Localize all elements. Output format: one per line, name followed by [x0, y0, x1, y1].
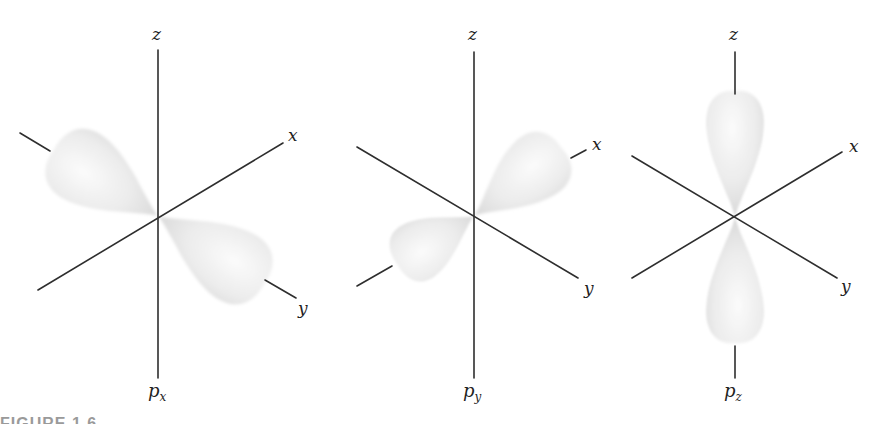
x-axis-label: x [849, 136, 859, 156]
orbital-letter: p [724, 380, 736, 401]
lobe-axis-stub-lower [357, 266, 392, 286]
py-lobe-upper [453, 121, 582, 242]
panel-pz: z x y pz [632, 24, 859, 404]
p-orbitals-figure: z x y px z x y py [0, 0, 877, 424]
y-axis-label: y [583, 278, 594, 298]
orbital-letter: p [148, 380, 160, 401]
x-axis-label: x [288, 125, 298, 145]
figure-caption: FIGURE 1.6 [0, 413, 97, 424]
y-axis-label: y [840, 276, 851, 296]
px-lobe-back [34, 117, 178, 247]
pz-lobe-lower [706, 217, 764, 343]
z-axis-label: z [467, 24, 478, 44]
panel-py: z x y py [357, 24, 602, 404]
orbital-subscript: z [735, 390, 743, 404]
panel-px: z x y px [20, 24, 308, 404]
x-axis-label: x [592, 134, 602, 154]
orbital-subscript: y [474, 390, 482, 404]
lobe-axis-stub-upper [571, 150, 586, 158]
px-lobe-front [138, 185, 284, 316]
orbital-label-py: py [463, 380, 482, 404]
y-axis-label: y [297, 298, 308, 318]
lobe-axis-stub-front [265, 280, 296, 298]
orbital-label-pz: pz [724, 380, 743, 404]
z-axis-label: z [151, 24, 162, 44]
orbital-letter: p [463, 380, 475, 401]
lobe-axis-stub-back [20, 133, 50, 151]
z-axis-label: z [728, 24, 739, 44]
pz-lobe-upper [706, 91, 764, 217]
orbital-subscript: x [160, 390, 167, 404]
orbital-label-px: px [148, 380, 167, 404]
